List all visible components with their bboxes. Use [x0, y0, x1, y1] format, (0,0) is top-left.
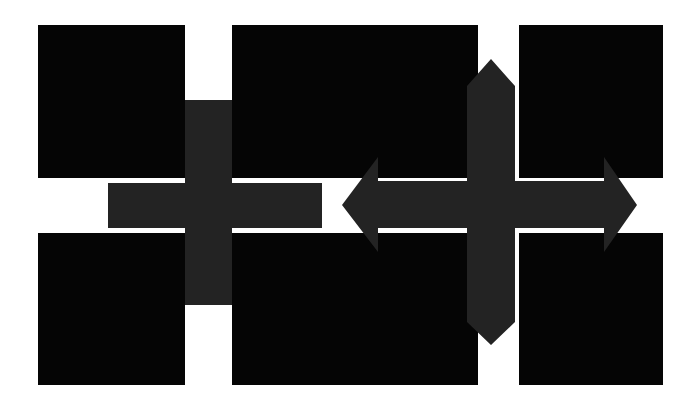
composition-svg — [0, 0, 695, 405]
square-top-center — [232, 25, 478, 178]
square-bottom-center — [232, 233, 478, 385]
square-bottom-right — [519, 233, 663, 385]
square-top-left — [38, 25, 185, 178]
artwork-canvas — [0, 0, 695, 405]
square-top-right — [519, 25, 663, 178]
square-bottom-left — [38, 233, 185, 385]
